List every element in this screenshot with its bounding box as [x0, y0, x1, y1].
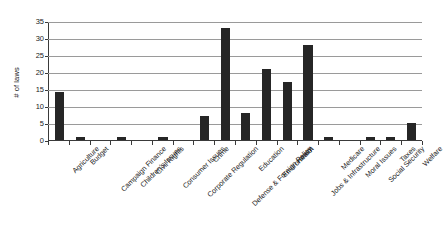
bar-slot — [318, 22, 339, 140]
bar-slot — [235, 22, 256, 140]
bar — [55, 92, 64, 140]
y-tick-mark — [45, 124, 48, 125]
y-tick-label: 20 — [36, 69, 44, 77]
y-tick-label: 35 — [36, 18, 44, 26]
x-axis-labels: AgricultureBudgetCampaign FinanceChildre… — [48, 145, 422, 250]
bar-slot — [215, 22, 236, 140]
bar-slot — [381, 22, 402, 140]
bar — [303, 45, 312, 140]
bar — [241, 113, 250, 140]
y-tick-mark — [45, 107, 48, 108]
y-tick-label: 30 — [36, 35, 44, 43]
bar-slot — [256, 22, 277, 140]
bar-slot — [401, 22, 422, 140]
y-tick-label: 0 — [40, 137, 44, 145]
bar-slot — [298, 22, 319, 140]
bar — [76, 137, 85, 140]
y-axis-title: # of laws — [12, 53, 21, 113]
y-tick-label: 10 — [36, 103, 44, 111]
bar — [407, 123, 416, 140]
y-tick-label: 5 — [40, 120, 44, 128]
bar — [221, 28, 230, 140]
y-tick-mark — [45, 73, 48, 74]
y-tick-label: 15 — [36, 86, 44, 94]
bar-slot — [339, 22, 360, 140]
bar-slot — [132, 22, 153, 140]
bar-slot — [277, 22, 298, 140]
bar-slot — [194, 22, 215, 140]
bar-slot — [173, 22, 194, 140]
bar-slot — [111, 22, 132, 140]
bar — [262, 69, 271, 140]
bar — [200, 116, 209, 140]
y-tick-mark — [45, 22, 48, 23]
bar — [386, 137, 395, 140]
bar-series — [49, 22, 422, 140]
bar — [366, 137, 375, 140]
y-tick-mark — [45, 39, 48, 40]
bar — [158, 137, 167, 140]
plot-area: 05101520253035 — [48, 22, 422, 141]
bar-slot — [90, 22, 111, 140]
y-tick-mark — [45, 90, 48, 91]
bar-slot — [153, 22, 174, 140]
x-tick-label: Health — [295, 145, 315, 165]
bar — [283, 82, 292, 140]
x-tick-label: Education — [257, 145, 285, 173]
bar — [117, 137, 126, 140]
x-tick-mark — [422, 141, 423, 145]
bar-slot — [360, 22, 381, 140]
bar-slot — [70, 22, 91, 140]
y-tick-label: 25 — [36, 52, 44, 60]
bar-slot — [49, 22, 70, 140]
y-tick-mark — [45, 56, 48, 57]
x-tick-label: Crime — [212, 145, 231, 164]
bar — [324, 137, 333, 140]
